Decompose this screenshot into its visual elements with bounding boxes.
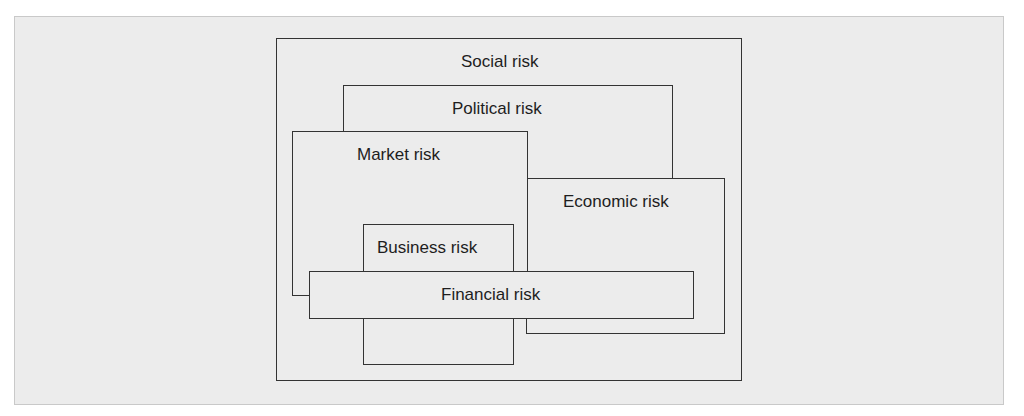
market-risk-label: Market risk	[357, 145, 440, 165]
political-risk-label: Political risk	[452, 99, 542, 119]
financial-risk-label: Financial risk	[441, 285, 540, 305]
economic-risk-label: Economic risk	[563, 192, 669, 212]
social-risk-label: Social risk	[461, 52, 538, 72]
business-risk-label: Business risk	[377, 238, 477, 258]
